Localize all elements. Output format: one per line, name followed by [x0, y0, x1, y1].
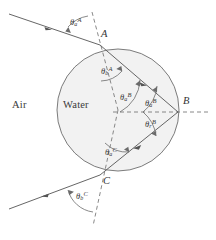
theta-superscript: C — [84, 190, 88, 197]
theta-subscript: b — [105, 70, 108, 76]
angle-label-theta-b-A: θbA — [101, 66, 113, 76]
theta-superscript: A — [109, 65, 113, 72]
theta-superscript: B — [128, 91, 132, 98]
angle-arc-theta-b-C-arrowhead — [68, 190, 74, 195]
point-label-c: C — [103, 176, 110, 187]
theta-superscript: B — [153, 97, 157, 104]
water-region-label: Water — [63, 100, 89, 111]
theta-superscript: A — [78, 16, 82, 23]
incident-ray — [9, 14, 100, 45]
exit-ray-arrowhead — [41, 194, 49, 197]
optics-diagram-canvas — [0, 0, 216, 240]
theta-superscript: C — [113, 146, 117, 153]
theta-subscript: a — [74, 21, 77, 27]
angle-label-theta-a-B-outer: θaB — [120, 92, 132, 102]
angle-label-theta-a-A: θaA — [70, 17, 82, 27]
point-label-a: A — [101, 29, 107, 40]
theta-subscript: b — [80, 195, 83, 201]
angle-label-theta-b-C: θbC — [76, 191, 88, 201]
optics-figure: Air Water A B C θaA θbA θaB θaB θrB θaC … — [0, 0, 216, 240]
angle-label-theta-a-B-inner: θaB — [145, 98, 157, 108]
angle-label-theta-r-B: θrB — [145, 119, 156, 129]
theta-subscript: a — [124, 96, 127, 102]
angle-arc-theta-a-A-arrowhead — [65, 27, 71, 33]
angle-label-theta-a-C: θaC — [105, 147, 117, 157]
point-label-b: B — [183, 96, 189, 107]
theta-subscript: a — [149, 102, 152, 108]
theta-superscript: B — [152, 118, 156, 125]
air-region-label: Air — [12, 100, 27, 111]
theta-subscript: a — [109, 151, 112, 157]
